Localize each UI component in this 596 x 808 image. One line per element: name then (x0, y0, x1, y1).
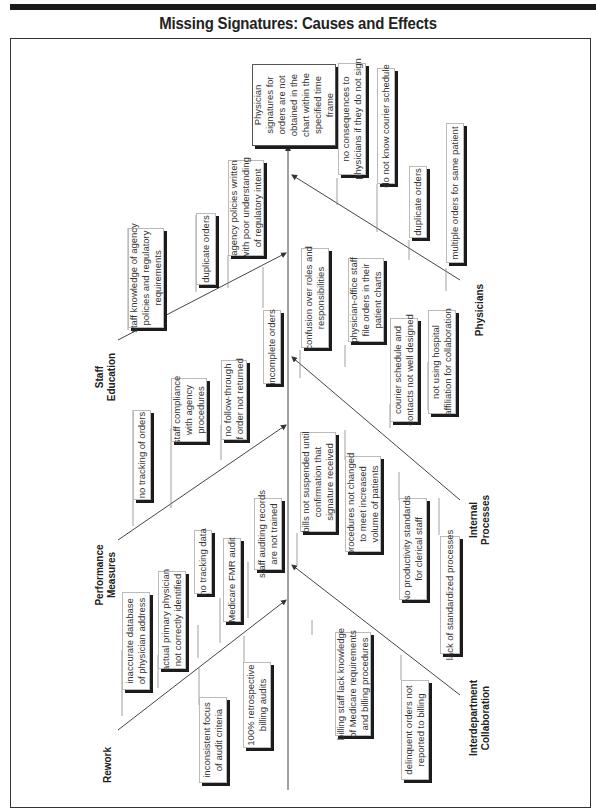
category-physicians: Physicians (474, 284, 486, 336)
category-staff-education: Staff Education (94, 353, 118, 401)
cause-box: no consequences to physicians if they do… (338, 63, 366, 175)
cause-box: procedures not changed to meet increased… (345, 456, 381, 552)
cause-box: Medicare FMR audit (223, 538, 241, 622)
cause-box: physician-office staff file orders in th… (348, 258, 384, 342)
cause-box: courier schedule and contacts not well d… (390, 318, 418, 422)
cause-box: inconsistent focus of audit criteria (199, 697, 227, 783)
category-internal-processes: Internal Processes (468, 495, 492, 545)
cause-box: lack of standardized processes (440, 536, 460, 654)
cause-box: duplicate orders (409, 166, 427, 238)
cause-box: do not know courier schedule (377, 68, 395, 184)
cause-box: staff auditing records are not trained (254, 498, 282, 570)
cause-box: staff compliance with agency procedures (171, 378, 207, 442)
cause-box: 100% retrospective billing audits (243, 662, 271, 748)
category-rework: Rework (102, 747, 114, 783)
cause-box: not using hospital affiliation for colla… (428, 310, 456, 414)
cause-box: staff knowledge of agency policies and r… (128, 228, 164, 328)
cause-box: multiple orders for same patient (446, 123, 464, 263)
cause-box: billing staff lack knowledge of Medicare… (335, 632, 371, 736)
cause-box: no tracking of orders (133, 410, 151, 500)
cause-box: no tracking data (194, 530, 212, 594)
cause-box: agency policies written with poor unders… (228, 160, 264, 256)
category-performance-measures: Performance Measures (94, 544, 118, 605)
cause-box: confusion over roles and responsibilitie… (301, 248, 329, 348)
effect-box: Physician signatures for orders are not … (252, 64, 336, 146)
cause-box: bills not suspended until confirmation t… (300, 432, 336, 532)
effect-text: Physician signatures for orders are not … (252, 73, 336, 137)
cause-box: delinquent orders not reported to billin… (401, 680, 429, 780)
cause-box: No productivity standards for clerical s… (399, 498, 427, 600)
cause-box: no follow-through if order not returned (221, 360, 247, 440)
cause-box: duplicate orders (196, 213, 216, 285)
cause-box: actual primary physician not correctly i… (158, 571, 186, 669)
category-interdepartment-collaboration: Interdepartment Collaboration (468, 680, 492, 756)
cause-box: inaccurate database of physician address (122, 592, 150, 690)
cause-box: incomplete orders (263, 310, 281, 384)
